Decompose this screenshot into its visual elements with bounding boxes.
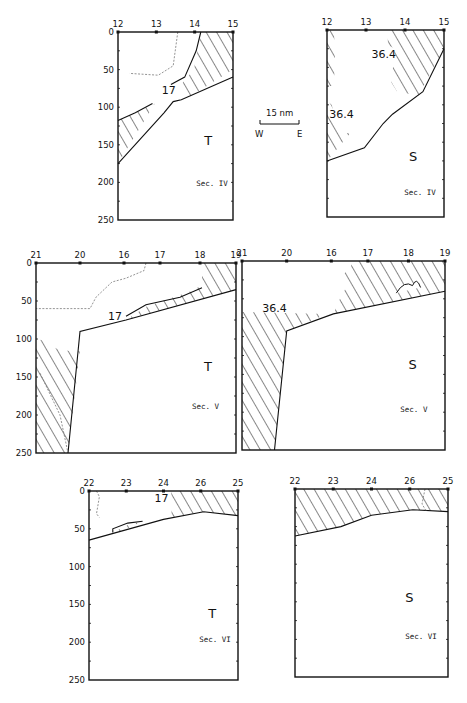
hatched-region [295,489,448,536]
section-label: Sec. VI [199,635,231,644]
x-tick-label: 26 [404,476,415,486]
y-tick-label: 200 [98,177,114,187]
y-tick-label: 150 [69,599,85,609]
x-tick-label: 20 [281,248,292,258]
x-tick-label: 23 [328,476,339,486]
x-tick-label: 21 [237,248,248,258]
x-tick-label: 19 [440,248,451,258]
y-tick-label: 100 [98,102,114,112]
hatched-region [171,491,238,518]
contour-line [89,512,238,540]
contour-label: 36.4 [262,302,287,315]
x-tick-label: 12 [113,19,124,29]
y-tick-label: 100 [69,562,85,572]
scale-bar: 15 nm W E [255,108,302,139]
dashed-contour [97,491,100,518]
x-tick-label: 13 [151,19,162,29]
variable-label: T [207,606,216,621]
scale-east-label: E [297,129,302,139]
x-tick-label: 12 [322,17,333,27]
figure-canvas: 1213141505010015020025017TSec. IV1213141… [0,0,467,703]
y-tick-label: 0 [27,258,32,268]
dashed-contour [130,32,178,75]
variable-label: S [409,149,417,164]
x-tick-label: 15 [228,19,239,29]
section-label: Sec. IV [196,179,228,188]
contour-label: 36.4 [329,108,354,121]
y-tick-label: 200 [69,637,85,647]
x-tick-label: 22 [290,476,301,486]
y-tick-label: 50 [103,65,114,75]
x-tick-label: 16 [119,250,130,260]
x-tick-label: 17 [362,248,373,258]
x-tick-label: 26 [195,478,206,488]
x-tick-label: 13 [361,17,372,27]
y-tick-label: 50 [74,524,85,534]
hatched-region [126,263,236,320]
x-tick-label: 21 [31,250,42,260]
section-label: Sec. VI [405,632,437,641]
x-tick-label: 24 [158,478,169,488]
x-tick-label: 25 [233,478,244,488]
y-tick-label: 0 [80,486,85,496]
scale-west-label: W [255,129,264,139]
y-tick-label: 250 [98,215,114,225]
panel-seciv-s: 1213141536.436.4SSec. IV [322,17,450,217]
hatched-region [327,30,335,86]
variable-label: S [405,590,413,605]
contour-label: 17 [162,84,176,97]
y-tick-label: 250 [69,675,85,685]
y-tick-label: 250 [16,448,32,458]
section-label: Sec. V [400,405,428,414]
hatched-region [178,32,233,98]
x-tick-label: 14 [189,19,200,29]
x-tick-label: 23 [121,478,132,488]
hatched-region [388,30,444,96]
contour-label: 36.4 [371,48,396,61]
x-tick-label: 22 [84,478,95,488]
y-tick-label: 100 [16,334,32,344]
contour-label: 17 [108,310,122,323]
section-label: Sec. V [192,402,220,411]
dashed-contour [36,263,146,309]
y-tick-label: 50 [21,296,32,306]
contour-label: 17 [155,492,169,505]
panel-secv-s: 21201617181936.4SSec. V [237,248,451,450]
variable-label: S [408,357,416,372]
hatched-region [242,312,327,450]
y-tick-label: 150 [98,140,114,150]
x-tick-label: 18 [195,250,206,260]
y-tick-label: 150 [16,372,32,382]
variable-label: T [203,359,212,374]
panel-secvi-s: 2223242625SSec. VI [290,476,454,677]
panel-seciv-t: 1213141505010015020025017TSec. IV [98,19,239,225]
x-tick-label: 17 [155,250,166,260]
x-tick-label: 15 [439,17,450,27]
y-tick-label: 0 [109,27,114,37]
hatched-region [333,261,445,314]
section-label: Sec. IV [404,188,436,197]
x-tick-label: 20 [75,250,86,260]
panel-secv-t: 21201617181905010015020025017TSec. V [16,250,242,458]
x-tick-label: 16 [326,248,337,258]
x-tick-label: 25 [443,476,454,486]
variable-label: T [203,133,212,148]
x-tick-label: 24 [366,476,377,486]
panel-secvi-t: 222324262505010015020025017TSec. VI [69,478,244,685]
y-tick-label: 200 [16,410,32,420]
scale-bar-label: 15 nm [266,108,293,118]
x-tick-label: 14 [400,17,411,27]
x-tick-label: 18 [403,248,414,258]
